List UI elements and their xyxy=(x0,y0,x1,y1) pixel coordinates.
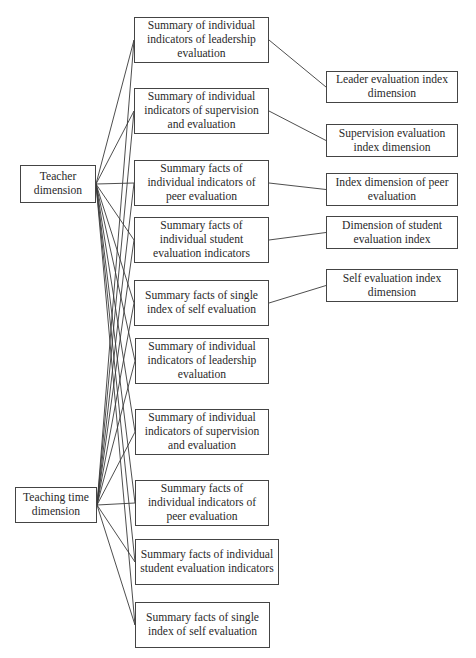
node-label: Dimension of student evaluation index xyxy=(330,219,454,247)
node-label: Summary facts of single index of self ev… xyxy=(138,289,265,317)
edge-time-m4 xyxy=(97,240,134,505)
node-label: Teaching time dimension xyxy=(19,491,93,519)
node-label: Supervision evaluation index dimension xyxy=(330,127,454,155)
node-label: Self evaluation index dimension xyxy=(330,272,454,300)
edge-teacher-m3 xyxy=(96,183,134,184)
node-self-summary-2: Summary facts of single index of self ev… xyxy=(135,602,270,648)
node-supervision-evaluation-index: Supervision evaluation index dimension xyxy=(326,124,458,157)
node-label: Summary of individual indicators of supe… xyxy=(138,90,265,132)
node-teaching-time-dimension: Teaching time dimension xyxy=(15,487,97,523)
node-peer-summary-2: Summary facts of individual indicators o… xyxy=(135,480,269,526)
edge-m4-t4 xyxy=(269,233,326,241)
node-supervision-summary-1: Summary of individual indicators of supe… xyxy=(134,88,269,134)
node-label: Teacher dimension xyxy=(24,170,92,198)
node-self-evaluation-index: Self evaluation index dimension xyxy=(326,269,458,302)
node-label: Summary facts of individual indicators o… xyxy=(138,162,265,204)
edge-time-m3 xyxy=(97,183,134,505)
node-label: Index dimension of peer evaluation xyxy=(330,176,454,204)
node-label: Summary facts of individual student eval… xyxy=(139,548,275,576)
node-leadership-summary-1: Summary of individual indicators of lead… xyxy=(134,17,269,63)
edge-time-m9 xyxy=(97,505,135,562)
node-label: Summary facts of individual student eval… xyxy=(138,219,265,261)
node-label: Summary of individual indicators of lead… xyxy=(139,340,265,382)
node-label: Summary facts of single index of self ev… xyxy=(139,611,266,639)
node-student-summary-2: Summary facts of individual student eval… xyxy=(135,539,279,585)
node-student-summary-1: Summary facts of individual student eval… xyxy=(134,217,269,263)
node-peer-summary-1: Summary facts of individual indicators o… xyxy=(134,160,269,206)
edge-m1-t1 xyxy=(269,40,326,87)
node-label: Summary of individual indicators of lead… xyxy=(138,19,265,61)
node-supervision-summary-2: Summary of individual indicators of supe… xyxy=(135,409,269,455)
node-label: Leader evaluation index dimension xyxy=(330,73,454,101)
edge-m5-t5 xyxy=(269,286,326,304)
node-label: Summary facts of individual indicators o… xyxy=(139,482,265,524)
node-student-evaluation-index: Dimension of student evaluation index xyxy=(326,216,458,249)
node-leadership-summary-2: Summary of individual indicators of lead… xyxy=(135,338,269,384)
node-teacher-dimension: Teacher dimension xyxy=(20,165,96,203)
node-self-summary-1: Summary facts of single index of self ev… xyxy=(134,280,269,326)
edge-m3-t3 xyxy=(269,183,326,190)
node-peer-evaluation-index: Index dimension of peer evaluation xyxy=(326,173,458,206)
node-leader-evaluation-index: Leader evaluation index dimension xyxy=(326,71,458,103)
edge-m2-t2 xyxy=(269,111,326,141)
edge-time-m5 xyxy=(97,303,134,505)
node-label: Summary of individual indicators of supe… xyxy=(139,411,265,453)
